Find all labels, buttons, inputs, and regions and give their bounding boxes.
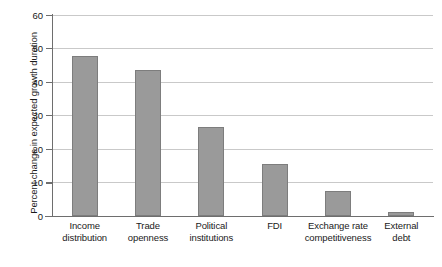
y-axis-tick-label: 50 <box>3 43 43 54</box>
bar-chart: Percent change in expected growth durati… <box>0 0 442 267</box>
y-axis-tick-label: 10 <box>3 177 43 188</box>
y-axis-tick-label: 0 <box>3 211 43 222</box>
y-axis-tick-label: 20 <box>3 143 43 154</box>
y-axis-tick-label: 40 <box>3 76 43 87</box>
y-axis-tick-mark <box>46 115 53 116</box>
y-axis-tick-mark <box>46 182 53 183</box>
y-axis-tick-mark <box>46 82 53 83</box>
bar <box>198 127 224 216</box>
y-axis-tick-label: 30 <box>3 110 43 121</box>
y-axis-tick-mark <box>46 149 53 150</box>
x-axis-category-label-line: External <box>360 220 442 232</box>
bar <box>72 56 98 216</box>
x-axis-category-label-line: institutions <box>170 232 253 244</box>
x-axis-line <box>45 216 434 217</box>
x-axis-category-label-line: debt <box>360 232 442 244</box>
y-axis-tick-mark <box>46 216 53 217</box>
y-axis-tick-mark <box>46 48 53 49</box>
bar <box>388 212 414 216</box>
bar <box>262 164 288 216</box>
bar <box>135 70 161 216</box>
bars-layer <box>53 15 433 217</box>
bar <box>325 191 351 216</box>
y-axis-tick-labels: 0102030405060 <box>0 0 43 267</box>
y-axis-tick-label: 60 <box>3 9 43 20</box>
y-axis-tick-mark <box>46 15 53 16</box>
x-axis-category-label: Externaldebt <box>360 220 442 243</box>
x-axis-category-labels: IncomedistributionTradeopennessPolitical… <box>53 220 433 264</box>
